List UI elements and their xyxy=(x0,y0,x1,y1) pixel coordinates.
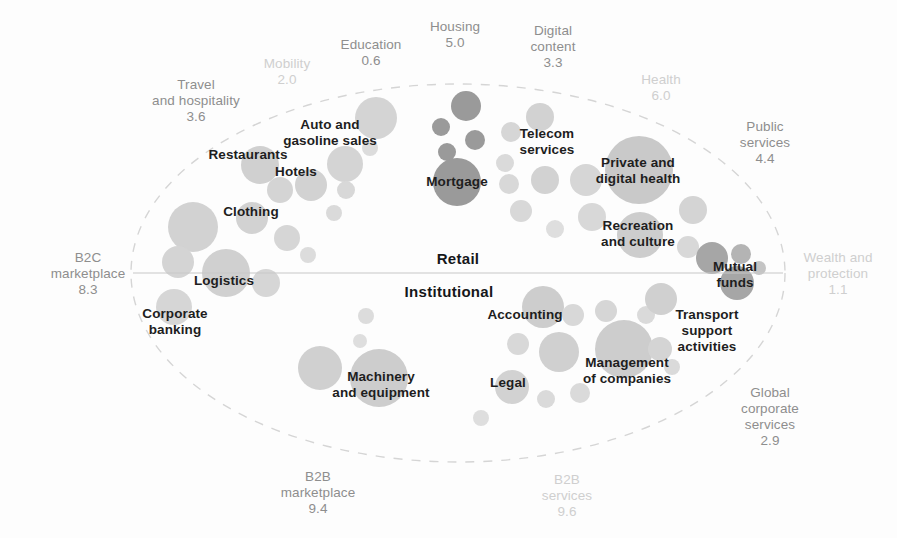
outer-label-mobility: Mobility 2.0 xyxy=(264,56,311,88)
bubble[interactable] xyxy=(507,333,529,355)
bubble-label-hotels: Hotels xyxy=(275,164,317,180)
bubble[interactable] xyxy=(353,334,367,348)
bubble-chart-figure: Mobility 2.0Education 0.6Housing 5.0Digi… xyxy=(0,0,897,538)
outer-label-education: Education 0.6 xyxy=(341,37,402,69)
bubble-label-telecom: Telecom services xyxy=(520,126,575,158)
bubble-label-private-health: Private and digital health xyxy=(596,155,681,187)
bubble[interactable] xyxy=(337,181,355,199)
bubble-label-transport: Transport support activities xyxy=(675,307,738,355)
outer-label-housing: Housing 5.0 xyxy=(430,19,480,51)
bubble[interactable] xyxy=(595,300,617,322)
outer-label-public-services: Public services 4.4 xyxy=(740,119,790,167)
bubble[interactable] xyxy=(327,146,363,182)
bubble[interactable] xyxy=(168,202,218,252)
outer-label-global-corporate: Global corporate services 2.9 xyxy=(741,385,799,449)
bubble[interactable] xyxy=(326,205,342,221)
bubble[interactable] xyxy=(451,91,481,121)
axis-label-retail: Retail xyxy=(437,250,480,268)
bubble-label-recreation: Recreation and culture xyxy=(601,218,675,250)
bubble[interactable] xyxy=(539,332,579,372)
bubble[interactable] xyxy=(510,200,532,222)
bubble-label-management: Management of companies xyxy=(583,355,671,387)
outer-label-wealth-protection: Wealth and protection 1.1 xyxy=(803,250,872,298)
bubble[interactable] xyxy=(679,196,707,224)
bubble[interactable] xyxy=(546,220,564,238)
outer-label-b2c-marketplace: B2C marketplace 8.3 xyxy=(51,250,126,298)
bubble[interactable] xyxy=(465,130,485,150)
bubble[interactable] xyxy=(531,166,559,194)
bubble[interactable] xyxy=(496,154,514,172)
bubble[interactable] xyxy=(274,225,300,251)
bubble-label-machinery: Machinery and equipment xyxy=(332,369,429,401)
bubble-label-logistics: Logistics xyxy=(194,273,254,289)
bubble[interactable] xyxy=(645,283,677,315)
bubble-label-corporate-bank: Corporate banking xyxy=(142,306,207,338)
bubble[interactable] xyxy=(499,174,519,194)
outer-label-b2b-services: B2B services 9.6 xyxy=(542,472,592,520)
bubble[interactable] xyxy=(267,177,293,203)
bubble-label-accounting: Accounting xyxy=(487,307,562,323)
chart-canvas xyxy=(0,0,897,538)
bubble[interactable] xyxy=(501,122,521,142)
outer-label-digital-content: Digital content 3.3 xyxy=(531,23,576,71)
bubble-label-legal: Legal xyxy=(490,375,526,391)
bubble[interactable] xyxy=(432,118,450,136)
bubble-label-mutual-funds: Mutual funds xyxy=(713,259,757,291)
outer-label-b2b-marketplace: B2B marketplace 9.4 xyxy=(281,469,356,517)
outer-label-travel-hospitality: Travel and hospitality 3.6 xyxy=(152,77,240,125)
bubble-label-restaurants: Restaurants xyxy=(208,147,287,163)
bubble[interactable] xyxy=(677,236,699,258)
bubble[interactable] xyxy=(473,410,489,426)
bubble[interactable] xyxy=(358,308,374,324)
bubble[interactable] xyxy=(300,247,316,263)
bubble-label-clothing: Clothing xyxy=(223,204,279,220)
axis-label-institutional: Institutional xyxy=(405,283,494,301)
bubble-label-mortgage: Mortgage xyxy=(426,174,488,190)
bubble[interactable] xyxy=(562,304,584,326)
bubble[interactable] xyxy=(537,390,555,408)
outer-label-health: Health 6.0 xyxy=(641,72,681,104)
bubble-label-auto-gasoline: Auto and gasoline sales xyxy=(283,117,377,149)
